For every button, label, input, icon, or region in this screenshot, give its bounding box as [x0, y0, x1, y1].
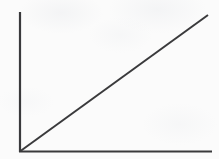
- plot-area: [0, 0, 219, 159]
- linear-trend-line: [21, 15, 209, 151]
- line-graph-figure: [0, 0, 219, 159]
